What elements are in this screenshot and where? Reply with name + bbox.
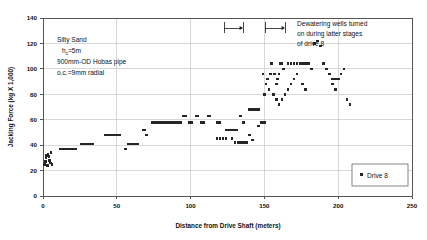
data-point[interactable] (136, 143, 139, 146)
data-point[interactable] (281, 62, 284, 65)
data-point[interactable] (346, 98, 349, 101)
data-point[interactable] (304, 88, 307, 91)
data-point[interactable] (185, 115, 188, 118)
data-point[interactable] (208, 115, 211, 118)
callout-arrowhead (240, 26, 243, 30)
data-point[interactable] (216, 137, 219, 140)
data-point[interactable] (337, 78, 340, 81)
data-point[interactable] (257, 108, 260, 111)
data-point[interactable] (237, 141, 240, 144)
data-point[interactable] (263, 93, 266, 96)
data-point[interactable] (278, 103, 281, 106)
x-tick-label-200: 200 (333, 202, 344, 209)
y-tick-label-0: 0 (34, 192, 38, 199)
callout-arrowhead (282, 26, 285, 30)
data-point[interactable] (242, 141, 245, 144)
data-point[interactable] (118, 134, 121, 137)
data-point[interactable] (349, 103, 352, 106)
data-point[interactable] (179, 121, 182, 124)
data-point[interactable] (47, 153, 50, 156)
data-point[interactable] (124, 148, 127, 151)
data-point[interactable] (182, 115, 185, 118)
data-point[interactable] (262, 73, 265, 76)
data-point[interactable] (222, 137, 225, 140)
data-point[interactable] (191, 121, 194, 124)
data-point[interactable] (331, 83, 334, 86)
y-tick-label-120: 120 (27, 40, 38, 47)
data-point[interactable] (92, 143, 95, 146)
data-point[interactable] (219, 137, 222, 140)
data-point[interactable] (48, 159, 51, 162)
data-point[interactable] (48, 155, 51, 158)
data-point[interactable] (203, 121, 206, 124)
data-point[interactable] (310, 68, 313, 71)
data-point[interactable] (340, 73, 343, 76)
data-point[interactable] (296, 62, 299, 65)
data-point[interactable] (219, 121, 222, 124)
data-point[interactable] (46, 164, 49, 167)
data-point[interactable] (235, 129, 238, 132)
data-point[interactable] (43, 163, 46, 166)
data-point[interactable] (251, 139, 254, 142)
data-point[interactable] (260, 121, 263, 124)
data-point[interactable] (231, 137, 234, 140)
legend[interactable]: Drive 8 (352, 164, 408, 186)
data-point[interactable] (275, 98, 278, 101)
data-point[interactable] (245, 141, 248, 144)
data-point[interactable] (225, 137, 228, 140)
data-point[interactable] (50, 151, 53, 154)
data-point[interactable] (282, 68, 285, 71)
data-point[interactable] (248, 134, 251, 137)
data-point[interactable] (272, 93, 275, 96)
data-point[interactable] (144, 129, 147, 132)
data-point[interactable] (343, 68, 346, 71)
data-point[interactable] (275, 83, 278, 86)
data-point[interactable] (293, 62, 296, 65)
data-point[interactable] (328, 73, 331, 76)
dewatering-note-line-3: of drive 8 (297, 40, 324, 47)
data-point[interactable] (242, 121, 245, 124)
data-point[interactable] (239, 141, 242, 144)
data-point[interactable] (278, 73, 281, 76)
data-point[interactable] (307, 62, 310, 65)
data-point[interactable] (304, 62, 307, 65)
data-point[interactable] (51, 163, 54, 166)
x-tick-label-0: 0 (41, 202, 45, 209)
y-tick-label-60: 60 (30, 116, 37, 123)
data-point[interactable] (334, 88, 337, 91)
data-point[interactable] (284, 93, 287, 96)
data-point[interactable] (331, 78, 334, 81)
data-point[interactable] (287, 88, 290, 91)
data-point[interactable] (322, 62, 325, 65)
data-point[interactable] (266, 78, 269, 81)
data-point[interactable] (257, 125, 260, 128)
data-point[interactable] (276, 78, 279, 81)
data-point[interactable] (301, 62, 304, 65)
data-point[interactable] (290, 62, 293, 65)
data-point[interactable] (74, 148, 77, 151)
data-point[interactable] (270, 62, 273, 65)
x-tick-label-150: 150 (259, 202, 270, 209)
dewatering-callout (265, 22, 285, 33)
data-point[interactable] (268, 88, 271, 91)
data-point[interactable] (287, 62, 290, 65)
data-point[interactable] (265, 83, 268, 86)
data-point[interactable] (281, 98, 284, 101)
data-point[interactable] (325, 68, 328, 71)
data-point[interactable] (45, 157, 48, 160)
data-point[interactable] (293, 78, 296, 81)
data-point[interactable] (290, 83, 293, 86)
data-point[interactable] (44, 160, 47, 163)
data-point[interactable] (301, 83, 304, 86)
data-point[interactable] (197, 115, 200, 118)
data-point[interactable] (234, 141, 237, 144)
data-point[interactable] (269, 73, 272, 76)
data-point[interactable] (273, 73, 276, 76)
data-point[interactable] (296, 73, 299, 76)
data-point[interactable] (334, 78, 337, 81)
data-point[interactable] (145, 134, 148, 137)
dewatering-note-line-2: on during latter stages (297, 30, 363, 38)
data-point[interactable] (263, 121, 266, 124)
data-point[interactable] (299, 62, 302, 65)
data-point[interactable] (239, 115, 242, 118)
